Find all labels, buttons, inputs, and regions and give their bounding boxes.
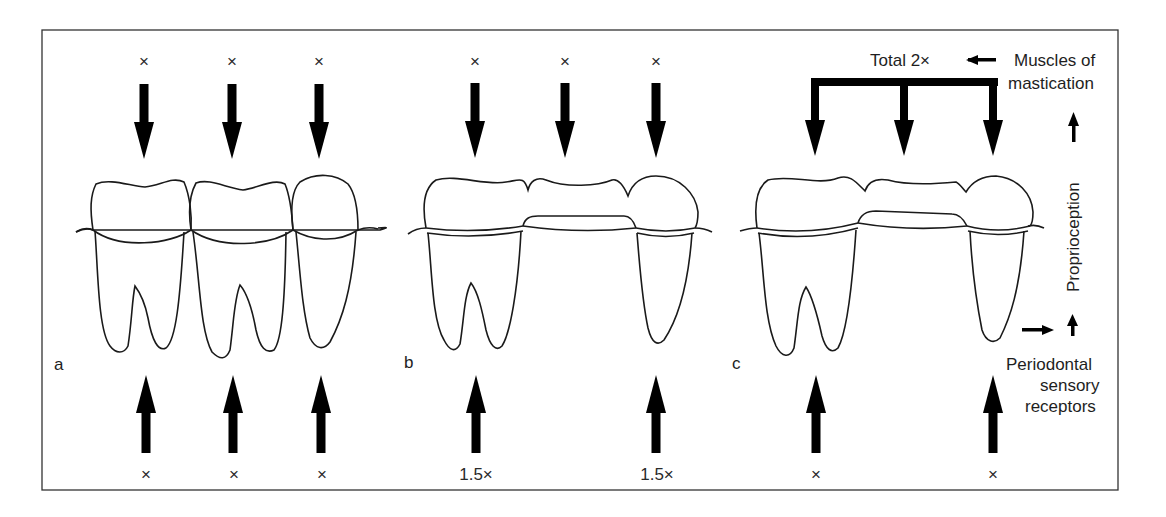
panel-c	[740, 55, 1079, 453]
reaction-force-arrow-icon	[466, 375, 486, 453]
panel-label-a: a	[54, 356, 63, 373]
force-label-a-bottom-2: ×	[229, 465, 239, 485]
occlusal-force-arrow-icon	[309, 84, 329, 159]
combined-force-bracket-icon	[805, 78, 1003, 156]
muscle-arrow-icon	[966, 55, 996, 65]
diagram-canvas	[0, 0, 1166, 517]
total-force-label: Total 2×	[870, 52, 930, 69]
force-label-a-top-2: ×	[227, 52, 237, 72]
receptors-label-line1: Periodontal	[1006, 356, 1092, 373]
muscles-label-line2: mastication	[1008, 75, 1094, 92]
force-label-c-bottom-1: ×	[811, 465, 821, 485]
force-label-b-top-2: ×	[560, 52, 570, 72]
force-label-c-bottom-2: ×	[988, 465, 998, 485]
occlusal-force-arrow-icon	[222, 84, 242, 159]
teeth-row-a	[76, 175, 386, 357]
receptor-up-arrow-icon	[1067, 314, 1078, 336]
force-label-a-bottom-3: ×	[317, 465, 327, 485]
occlusal-force-arrow-icon	[646, 83, 666, 158]
reaction-force-arrow-icon	[646, 375, 666, 453]
force-label-a-top-3: ×	[314, 52, 324, 72]
force-label-b-bottom-1: 1.5×	[459, 465, 493, 485]
reaction-force-arrow-icon	[223, 375, 243, 453]
receptor-right-arrow-icon	[1022, 325, 1054, 335]
force-label-b-top-1: ×	[470, 52, 480, 72]
reaction-force-arrow-icon	[136, 375, 156, 453]
figure-frame	[42, 30, 1118, 490]
force-label-b-bottom-2: 1.5×	[640, 465, 674, 485]
panel-label-c: c	[732, 355, 741, 372]
reaction-force-arrow-icon	[311, 375, 331, 453]
proprioception-label: Proprioception	[1064, 182, 1084, 292]
force-label-a-top-1: ×	[139, 52, 149, 72]
receptors-label-line2: sensory	[1040, 377, 1100, 394]
panel-label-b: b	[404, 354, 413, 371]
reaction-force-arrow-icon	[806, 375, 826, 453]
receptors-label-line3: receptors	[1025, 398, 1096, 415]
occlusal-force-arrow-icon	[134, 84, 154, 159]
occlusal-force-arrow-icon	[465, 83, 485, 158]
dental-force-diagram: × × × a × × × × × × b 1.5× 1.5× Total 2×…	[0, 0, 1166, 517]
reaction-force-arrow-icon	[983, 375, 1003, 453]
panel-a	[76, 84, 386, 453]
muscles-label-line1: Muscles of	[1014, 52, 1095, 69]
panel-b	[408, 83, 712, 453]
proprioception-arrow-icon	[1068, 112, 1079, 142]
bridge-b	[408, 176, 712, 350]
bridge-c	[740, 176, 1044, 355]
force-label-a-bottom-1: ×	[141, 465, 151, 485]
force-label-b-top-3: ×	[651, 52, 661, 72]
occlusal-force-arrow-icon	[555, 83, 575, 158]
